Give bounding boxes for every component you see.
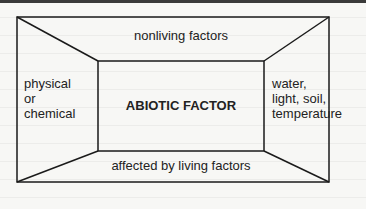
right-line: temperature [272, 106, 342, 121]
bottom-label: affected by living factors [98, 158, 264, 173]
left-line: or [24, 91, 75, 106]
right-line: water, [272, 76, 342, 91]
left-line: chemical [24, 106, 75, 121]
left-line: physical [24, 76, 75, 91]
top-label: nonliving factors [98, 28, 264, 43]
right-line: light, soil, [272, 91, 342, 106]
left-label: physical or chemical [24, 76, 75, 121]
right-label: water, light, soil, temperature [272, 76, 342, 121]
center-title: ABIOTIC FACTOR [98, 98, 264, 113]
